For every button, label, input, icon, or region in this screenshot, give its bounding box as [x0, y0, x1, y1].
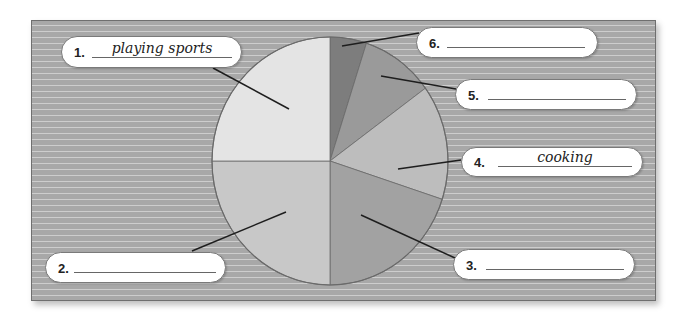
pie-slices — [212, 37, 448, 285]
label-box-2: 2. — [45, 252, 226, 283]
answer-blank[interactable] — [498, 166, 632, 167]
label-number: 3. — [466, 257, 477, 272]
label-number: 6. — [429, 35, 440, 50]
label-box-6: 6. — [416, 27, 598, 58]
label-box-1: 1. playing sports — [61, 36, 242, 68]
answer-blank[interactable] — [92, 57, 232, 58]
answer-text: cooking — [498, 149, 632, 165]
answer-blank[interactable] — [74, 272, 216, 273]
label-box-4: 4. cooking — [461, 147, 643, 177]
pie-slice-2 — [212, 161, 330, 285]
answer-blank[interactable] — [488, 99, 626, 100]
label-box-3: 3. — [453, 249, 635, 280]
answer-blank[interactable] — [486, 269, 624, 270]
label-number: 1. — [74, 45, 85, 60]
label-number: 5. — [468, 87, 479, 102]
answer-blank[interactable] — [447, 47, 585, 48]
label-number: 4. — [474, 155, 485, 170]
answer-text: playing sports — [92, 40, 232, 56]
label-box-5: 5. — [455, 79, 637, 110]
label-number: 2. — [58, 260, 69, 275]
